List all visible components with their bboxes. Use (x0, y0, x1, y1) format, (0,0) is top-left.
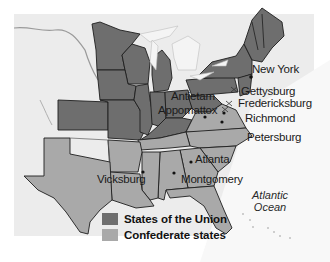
ocean-line-2: Ocean (252, 201, 288, 213)
legend-label-union: States of the Union (124, 213, 227, 225)
civil-war-map: New York Gettysburg Fredericksburg Antie… (0, 0, 330, 262)
legend-item-confederate: Confederate states (102, 227, 227, 243)
label-richmond: Richmond (245, 112, 295, 124)
label-appomattox: Appomattox (158, 104, 217, 116)
confederate-swatch (102, 229, 118, 241)
map-legend: States of the Union Confederate states (102, 211, 227, 243)
label-gettysburg: Gettysburg (241, 85, 295, 97)
legend-label-confederate: Confederate states (124, 229, 226, 241)
label-new-york: New York (252, 63, 299, 75)
label-vicksburg: Vicksburg (97, 173, 146, 185)
label-antietam: Antietam (171, 90, 215, 102)
label-fredericksburg: Fredericksburg (238, 97, 312, 109)
legend-item-union: States of the Union (102, 211, 227, 227)
label-atlanta: Atlanta (195, 153, 229, 165)
label-atlantic-ocean: Atlantic Ocean (252, 189, 288, 213)
union-swatch (102, 213, 118, 225)
ocean-line-1: Atlantic (252, 189, 288, 201)
label-petersburg: Petersburg (247, 131, 301, 143)
label-montgomery: Montgomery (181, 173, 243, 185)
